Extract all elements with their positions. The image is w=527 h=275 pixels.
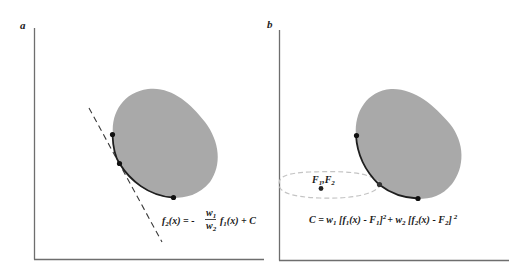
target-label: F1,F2 [311,174,335,187]
pareto-point [415,196,420,201]
panel-a: a f2(x) = - w1 w2 f1(x) + C [20,19,264,260]
equation-b: C = w1 [f1(x) - F1]2+ w2 [f2(x) - F2]2 [309,213,458,227]
svg-text:f1(x) + C: f1(x) + C [220,215,256,228]
pareto-point [110,132,115,137]
equation-a: f2(x) = - w1 w2 f1(x) + C [162,207,256,233]
pareto-point [171,195,176,200]
panel-b-label: b [267,18,273,30]
pareto-point [354,133,359,138]
panel-b: b F1,F2 C = w1 [f1(x) - F1]2+ w2 [f2(x) … [267,18,509,261]
feasible-region-b [356,89,462,199]
figure-canvas: a f2(x) = - w1 w2 f1(x) + C b [0,0,527,275]
tangent-point [117,161,122,166]
optimal-point [377,182,382,187]
svg-text:w2: w2 [206,220,217,233]
panel-a-label: a [20,19,26,31]
svg-text:w1: w1 [206,207,216,220]
svg-text:f2(x) = -: f2(x) = - [162,215,195,228]
